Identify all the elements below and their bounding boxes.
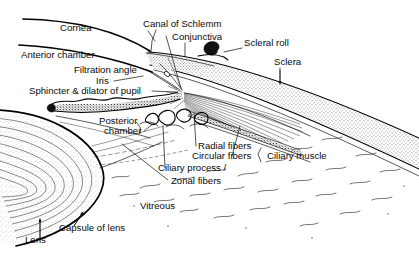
label-capsule_of_lens: Capsule of lens [59,222,125,233]
label-ciliary_process: Ciliary process / [158,162,227,173]
label-scleral_roll: Scleral roll [244,37,289,48]
label-posterior_chamber_l2: chamber [104,125,142,136]
label-lens: Lens [25,234,46,245]
label-zonal_fibers: Zonal fibers [171,175,221,186]
label-vitreous: Vitreous [140,200,175,211]
label-anterior_chamber: Anterior chamber [21,49,95,60]
eye-anatomy-svg: CorneaCanal of SchlemmConjunctivaScleral… [0,0,419,254]
label-circular_fibers: Circular fibers [192,150,251,161]
label-canal_of_schlemm: Canal of Schlemm [143,18,221,29]
label-ciliary_muscle: Ciliary muscle [267,150,327,161]
label-filtration_angle: Filtration angle [74,64,137,75]
label-cornea: Cornea [60,22,92,33]
label-sphincter_dilator: Sphincter & dilator of pupil [29,85,141,96]
eye-anatomy-figure: CorneaCanal of SchlemmConjunctivaScleral… [0,0,419,254]
label-sclera: Sclera [274,56,302,67]
label-conjunctiva: Conjunctiva [172,31,223,42]
